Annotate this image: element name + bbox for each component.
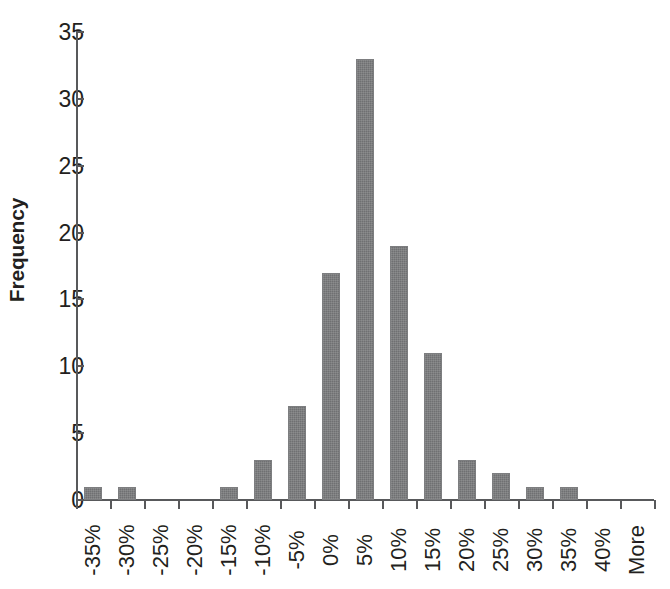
x-tick-label: 30% — [524, 513, 546, 587]
bar — [356, 59, 374, 500]
x-tick-mark — [144, 500, 146, 509]
y-axis-ticks: 05101520253035 — [22, 0, 84, 589]
x-tick-label: 15% — [422, 513, 444, 587]
x-tick-label-text: 0% — [320, 534, 342, 566]
x-tick-mark — [552, 500, 554, 509]
x-tick-label-text: -10% — [252, 524, 274, 575]
bar — [118, 487, 136, 500]
x-tick-mark — [348, 500, 350, 509]
x-tick-label-text: 30% — [524, 528, 546, 572]
x-tick-label-text: 35% — [558, 528, 580, 572]
bar — [84, 487, 102, 500]
x-tick-mark — [212, 500, 214, 509]
x-tick-label: 5% — [354, 513, 376, 587]
bar — [390, 246, 408, 500]
bar — [254, 460, 272, 500]
x-tick-label-text: -25% — [150, 524, 172, 575]
x-tick-mark — [450, 500, 452, 509]
bar — [526, 487, 544, 500]
bar — [424, 353, 442, 500]
bar — [458, 460, 476, 500]
x-tick-label: 40% — [592, 513, 614, 587]
x-tick-mark — [586, 500, 588, 509]
x-tick-mark — [654, 500, 656, 509]
x-tick-mark — [76, 500, 78, 509]
x-tick-label-text: -15% — [218, 524, 240, 575]
x-tick-label-text: -35% — [82, 524, 104, 575]
x-tick-label: 25% — [490, 513, 512, 587]
x-tick-mark — [314, 500, 316, 509]
x-tick-mark — [484, 500, 486, 509]
bar — [322, 273, 340, 500]
x-tick-mark — [110, 500, 112, 509]
x-tick-label-text: 10% — [388, 528, 410, 572]
x-tick-label: More — [626, 513, 648, 587]
x-tick-label-text: -20% — [184, 524, 206, 575]
figure-caption — [8, 572, 338, 589]
x-tick-mark — [280, 500, 282, 509]
x-tick-label-text: 40% — [592, 528, 614, 572]
x-tick-mark — [416, 500, 418, 509]
bar — [220, 487, 238, 500]
x-tick-label: 10% — [388, 513, 410, 587]
x-tick-mark — [382, 500, 384, 509]
x-tick-mark — [518, 500, 520, 509]
plot-area — [76, 32, 654, 500]
x-tick-label-text: 25% — [490, 528, 512, 572]
x-tick-mark — [620, 500, 622, 509]
x-tick-label-text: 15% — [422, 528, 444, 572]
x-tick-label-text: -5% — [286, 530, 308, 569]
x-tick-label-text: 20% — [456, 528, 478, 572]
x-tick-label-text: More — [626, 525, 648, 575]
x-tick-mark — [178, 500, 180, 509]
bar — [560, 487, 578, 500]
histogram-figure: Frequency 05101520253035 -35%-30%-25%-20… — [0, 0, 670, 589]
bar — [288, 406, 306, 500]
bar — [492, 473, 510, 500]
x-tick-label-text: -30% — [116, 524, 138, 575]
x-tick-label: 20% — [456, 513, 478, 587]
x-tick-label: 35% — [558, 513, 580, 587]
x-tick-label-text: 5% — [354, 534, 376, 566]
x-tick-mark — [246, 500, 248, 509]
